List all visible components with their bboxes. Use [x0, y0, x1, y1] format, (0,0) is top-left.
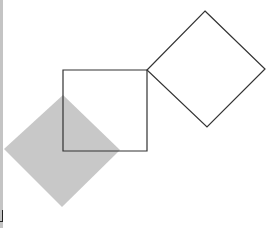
right-diamond-outline — [147, 11, 265, 127]
geometry-diagram — [0, 0, 275, 228]
